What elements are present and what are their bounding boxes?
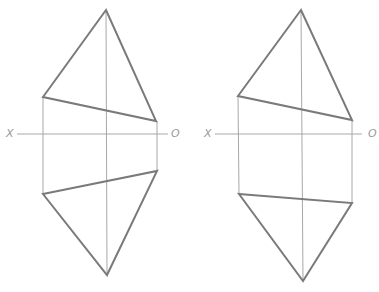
bottom-triangle-left [43, 171, 157, 275]
axis-label-o-left: O [171, 128, 180, 139]
right-projection [215, 10, 362, 281]
top-triangle-left [43, 10, 156, 121]
centerline-right [301, 10, 303, 281]
left-projection [17, 10, 168, 275]
axis-label-x-right: X [204, 128, 212, 139]
top-triangle-right [238, 10, 352, 120]
projection-drawing [0, 0, 379, 292]
centerline-left [106, 10, 107, 275]
axis-label-o-right: O [368, 128, 377, 139]
projector-right-a [238, 96, 239, 194]
axis-label-x-left: X [6, 128, 14, 139]
bottom-triangle-right [239, 194, 352, 281]
